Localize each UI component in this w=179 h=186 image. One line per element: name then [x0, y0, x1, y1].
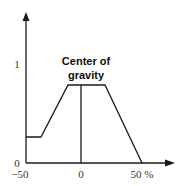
membership-diagram: Center of gravity 1 0 −50 0 50 % [0, 0, 179, 186]
membership-curve [26, 85, 142, 163]
x-tick-minus50: −50 [11, 168, 29, 180]
x-axis-arrow-icon [165, 160, 175, 167]
x-tick-0: 0 [78, 168, 84, 180]
cog-label-line1: Center of [62, 55, 111, 67]
cog-label-line2: gravity [68, 69, 105, 81]
x-tick-50-percent: 50 % [131, 168, 154, 180]
y-axis-arrow-icon [23, 12, 30, 21]
y-tick-1: 1 [14, 58, 20, 70]
